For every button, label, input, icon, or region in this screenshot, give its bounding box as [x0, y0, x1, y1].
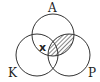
label-a: A [47, 1, 57, 15]
venn-diagram: A K P x [0, 0, 100, 82]
label-p: P [88, 66, 96, 80]
marker-x: x [39, 41, 46, 54]
label-k: K [8, 66, 18, 80]
